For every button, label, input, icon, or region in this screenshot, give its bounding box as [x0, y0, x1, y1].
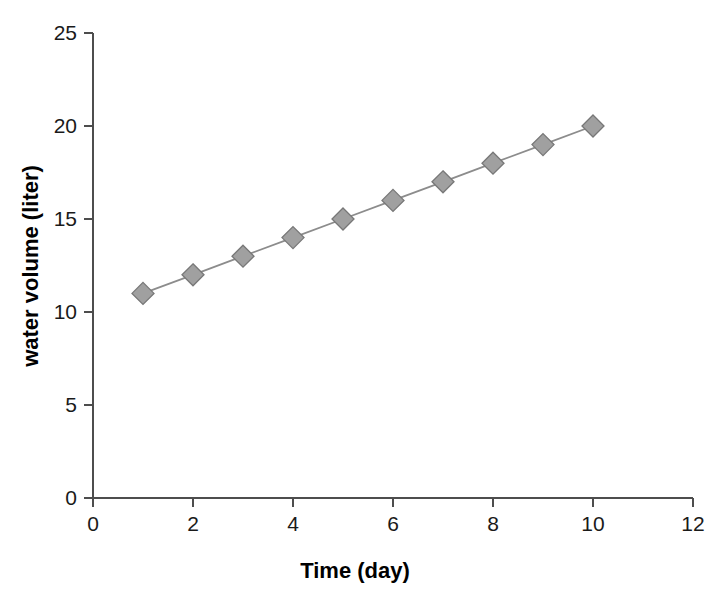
y-tick-label: 10 [54, 300, 77, 323]
x-tick-label: 4 [287, 512, 299, 535]
x-tick-label: 12 [681, 512, 704, 535]
y-axis-title: water volume (liter) [18, 165, 43, 368]
y-tick-label: 0 [65, 486, 77, 509]
x-tick-label: 10 [581, 512, 604, 535]
chart-background [0, 0, 715, 591]
line-chart-plot: 0510152025 024681012 Time (day) water vo… [0, 0, 715, 591]
y-tick-label: 5 [65, 393, 77, 416]
x-tick-label: 8 [487, 512, 499, 535]
y-tick-label: 15 [54, 207, 77, 230]
x-tick-label: 0 [87, 512, 99, 535]
y-tick-label: 25 [54, 21, 77, 44]
x-tick-label: 2 [187, 512, 199, 535]
y-tick-label: 20 [54, 114, 77, 137]
x-tick-label: 6 [387, 512, 399, 535]
chart-container: 0510152025 024681012 Time (day) water vo… [0, 0, 715, 591]
x-axis-title: Time (day) [300, 558, 410, 583]
